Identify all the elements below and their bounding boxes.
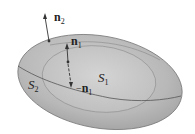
n2-label: n2	[54, 10, 65, 26]
arrow-head-icon	[43, 13, 47, 19]
vector-n2	[43, 13, 50, 42]
nested-surfaces-diagram: n2 n1 −n1 S1 S2	[0, 0, 195, 134]
